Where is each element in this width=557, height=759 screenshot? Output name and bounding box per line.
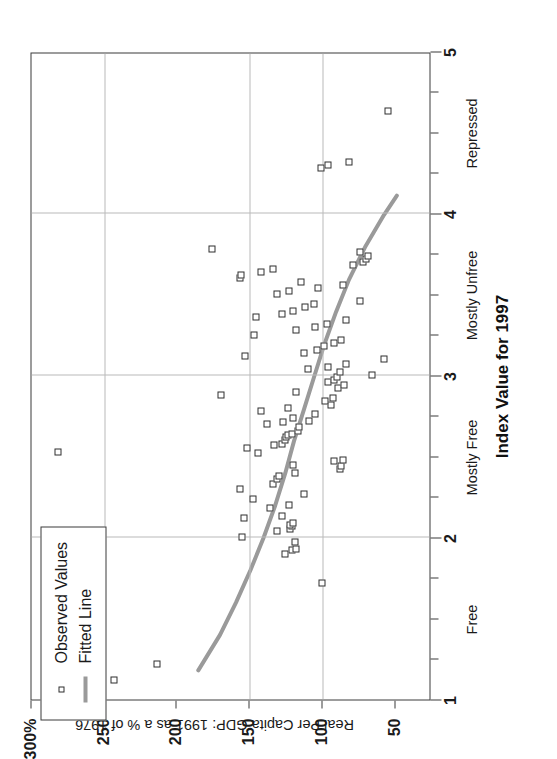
- data-point: [285, 501, 292, 508]
- data-point: [356, 248, 363, 255]
- data-point: [300, 490, 307, 497]
- data-point: [273, 527, 280, 534]
- x-axis-tick: [430, 51, 441, 52]
- data-point: [291, 469, 298, 476]
- data-point: [237, 271, 244, 278]
- data-point: [356, 297, 363, 304]
- x-axis-category-label: Free: [462, 604, 480, 634]
- y-axis-tick-label: 250: [94, 718, 112, 745]
- data-point: [250, 331, 257, 338]
- y-axis-tick-label: 300%: [21, 718, 39, 759]
- data-point: [323, 320, 330, 327]
- data-point: [263, 420, 270, 427]
- data-point: [240, 514, 247, 521]
- data-point: [337, 336, 344, 343]
- data-point: [279, 418, 286, 425]
- x-axis-category-label: Mostly Unfree: [462, 250, 480, 339]
- data-point: [297, 278, 304, 285]
- data-point: [311, 323, 318, 330]
- x-axis-tick-label: 1: [441, 696, 459, 705]
- data-point: [281, 550, 288, 557]
- data-point: [310, 300, 317, 307]
- y-axis-tick: [248, 700, 249, 708]
- data-point: [320, 342, 327, 349]
- x-axis-tick: [430, 537, 441, 538]
- data-point: [54, 448, 61, 455]
- x-axis-title: Index Value for 1997: [492, 52, 512, 700]
- data-point: [238, 534, 245, 541]
- horizontal-gridline: [249, 53, 250, 699]
- data-point: [340, 381, 347, 388]
- x-axis-tick: [430, 213, 441, 214]
- data-point: [313, 346, 320, 353]
- data-point: [337, 462, 344, 469]
- data-point: [257, 268, 264, 275]
- data-point: [339, 456, 346, 463]
- x-axis-tick-label: 2: [441, 534, 459, 543]
- data-point: [278, 310, 285, 317]
- y-axis-tick-label: 200: [166, 718, 184, 745]
- x-axis-ticks: [430, 52, 440, 700]
- x-axis-minor-tick: [430, 254, 438, 255]
- data-point: [292, 545, 299, 552]
- data-point: [368, 372, 375, 379]
- data-point: [270, 441, 277, 448]
- data-point: [110, 676, 117, 683]
- y-axis-tick: [175, 700, 176, 708]
- y-axis-tick-label: 100: [312, 718, 330, 745]
- data-point: [243, 444, 250, 451]
- data-point: [339, 281, 346, 288]
- legend-entry-observed-values: Observed Values: [49, 541, 73, 709]
- data-point: [321, 397, 328, 404]
- legend-label-fitted-line: Fitted Line: [76, 588, 94, 669]
- x-axis-minor-tick: [430, 659, 438, 660]
- data-point: [342, 316, 349, 323]
- x-axis-minor-tick: [430, 294, 438, 295]
- legend-entry-fitted-line: Fitted Line: [73, 541, 97, 709]
- data-point: [380, 355, 387, 362]
- data-point: [208, 245, 215, 252]
- data-point: [349, 261, 356, 268]
- data-point: [257, 407, 264, 414]
- horizontal-gridline: [322, 53, 323, 699]
- y-axis-tick: [30, 700, 31, 708]
- data-point: [295, 423, 302, 430]
- data-point: [301, 303, 308, 310]
- x-axis-tick-labels: 12345: [441, 52, 463, 700]
- legend-label-observed-values: Observed Values: [52, 541, 70, 669]
- data-point: [289, 414, 296, 421]
- data-point: [275, 472, 282, 479]
- data-point: [266, 504, 273, 511]
- x-axis-minor-tick: [430, 92, 438, 93]
- data-point: [342, 360, 349, 367]
- y-axis-tick: [321, 700, 322, 708]
- data-point: [345, 158, 352, 165]
- x-axis-minor-tick: [430, 173, 438, 174]
- data-point: [324, 161, 331, 168]
- data-point: [300, 349, 307, 356]
- data-point: [289, 307, 296, 314]
- x-axis-category-labels: FreeMostly FreeMostly UnfreeRepressed: [462, 52, 484, 700]
- data-point: [330, 457, 337, 464]
- x-axis-tick: [430, 375, 441, 376]
- data-point: [304, 365, 311, 372]
- y-axis-tick-labels: 300%25020015010050: [30, 714, 430, 758]
- data-point: [153, 660, 160, 667]
- data-point: [284, 404, 291, 411]
- chart-legend: Observed Values Fitted Line: [40, 526, 106, 720]
- open-square-icon: [58, 669, 64, 709]
- x-axis-tick-label: 5: [441, 48, 459, 57]
- data-point: [254, 449, 261, 456]
- x-axis-category-label: Repressed: [462, 98, 480, 168]
- x-axis-minor-tick: [430, 456, 438, 457]
- data-point: [311, 410, 318, 417]
- data-point: [292, 388, 299, 395]
- x-axis-category-label: Mostly Free: [462, 419, 480, 495]
- data-point: [269, 265, 276, 272]
- data-point: [364, 252, 371, 259]
- data-point: [289, 519, 296, 526]
- data-point: [217, 391, 224, 398]
- data-point: [318, 579, 325, 586]
